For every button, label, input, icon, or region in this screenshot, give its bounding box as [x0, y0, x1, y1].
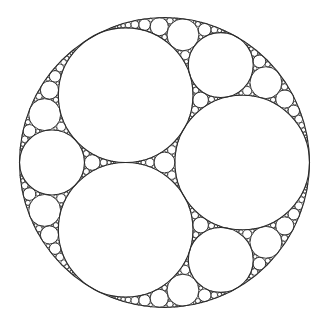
gasket-circle: [199, 90, 201, 92]
gasket-circle: [208, 221, 210, 223]
gasket-circle: [23, 125, 36, 138]
gasket-circle: [20, 174, 22, 176]
gasket-circle: [253, 253, 255, 255]
gasket-circle: [84, 155, 100, 171]
gasket-circle: [53, 97, 58, 102]
gasket-circle: [282, 244, 284, 246]
gasket-circle: [168, 171, 176, 179]
gasket-circle: [25, 199, 27, 201]
gasket-circle: [306, 140, 308, 142]
gasket-circle: [176, 18, 178, 20]
gasket-circle: [168, 146, 176, 154]
gasket-circle: [208, 95, 210, 97]
gasket-circle: [111, 296, 113, 298]
gasket-circle: [40, 193, 42, 195]
primary-circle-1: [175, 95, 310, 230]
gasket-circle: [193, 93, 195, 95]
gasket-circle: [224, 292, 226, 294]
gasket-circle: [21, 136, 28, 143]
gasket-circle: [33, 223, 35, 225]
gasket-circle: [293, 101, 297, 105]
gasket-circle: [282, 79, 284, 81]
gasket-circle: [274, 96, 276, 98]
gasket-circle: [285, 214, 288, 217]
gasket-circle: [218, 226, 220, 228]
gasket-circle: [81, 176, 83, 178]
gasket-circle: [176, 305, 178, 307]
gasket-circle: [111, 27, 113, 29]
gasket-circle: [288, 105, 299, 116]
primary-circle-3: [58, 28, 193, 163]
gasket-circle: [121, 297, 125, 301]
gasket-circle: [176, 50, 178, 52]
gasket-circle: [188, 272, 191, 275]
gasket-circle: [243, 86, 252, 95]
gasket-circle: [243, 230, 252, 239]
gasket-circle: [301, 128, 305, 132]
gasket-circle: [22, 134, 24, 136]
gasket-circle: [252, 267, 254, 269]
gasket-circle: [254, 95, 256, 97]
gasket-circle: [21, 182, 28, 189]
gasket-circle: [84, 167, 86, 169]
gasket-circle: [274, 227, 276, 229]
gasket-circle: [299, 197, 305, 203]
gasket-circle: [149, 303, 153, 307]
gasket-circle: [266, 263, 268, 265]
gasket-circle: [168, 299, 170, 301]
gasket-circle: [167, 18, 173, 24]
gasket-circle: [293, 220, 297, 224]
gasket-circle: [138, 27, 140, 29]
gasket-circle: [21, 179, 25, 183]
gasket-circle: [246, 279, 248, 281]
gasket-circle: [177, 138, 179, 140]
gasket-circle: [60, 203, 64, 207]
gasket-circle: [254, 229, 256, 231]
gasket-circle: [160, 36, 162, 38]
gasket-circle: [141, 160, 146, 165]
gasket-circle: [224, 31, 226, 33]
gasket-circle: [89, 153, 91, 155]
gasket-circle: [107, 161, 111, 165]
gasket-circle: [210, 25, 212, 27]
gasket-circle: [193, 87, 199, 93]
gasket-circle: [218, 29, 222, 33]
gasket-circle: [21, 142, 25, 146]
gasket-circle: [148, 293, 151, 296]
gasket-circle: [210, 291, 212, 293]
gasket-circle: [40, 130, 42, 132]
gasket-circle: [89, 170, 91, 172]
gasket-circle: [60, 117, 62, 119]
gasket-circle: [33, 101, 35, 103]
gasket-circle: [246, 44, 248, 46]
gasket-circle: [198, 39, 200, 41]
gasket-circle: [36, 129, 40, 133]
gasket-circle: [306, 183, 308, 185]
gasket-circle: [253, 257, 266, 270]
gasket-circle: [160, 287, 162, 289]
gasket-circle: [280, 89, 282, 91]
gasket-circle: [210, 32, 212, 34]
gasket-circle: [60, 251, 62, 253]
gasket-circle: [136, 162, 138, 164]
gasket-circle: [165, 33, 167, 35]
gasket-circle: [253, 55, 266, 68]
gasket-circle: [60, 119, 64, 123]
gasket-circle: [189, 205, 191, 207]
gasket-circle: [192, 83, 194, 85]
gasket-circle: [49, 71, 60, 82]
gasket-circle: [301, 193, 305, 197]
gasket-circle: [266, 60, 268, 62]
gasket-circle: [25, 124, 27, 126]
gasket-circle: [239, 230, 243, 234]
gasket-circle: [295, 115, 303, 123]
gasket-circle: [192, 240, 194, 242]
gasket-circle: [200, 301, 202, 303]
central-circle: [154, 152, 175, 173]
gasket-circle: [258, 53, 260, 55]
gasket-circle: [280, 234, 282, 236]
gasket-circle: [74, 49, 76, 51]
gasket-circle: [208, 102, 210, 104]
gasket-circle: [165, 173, 168, 176]
gasket-circle: [239, 91, 243, 95]
